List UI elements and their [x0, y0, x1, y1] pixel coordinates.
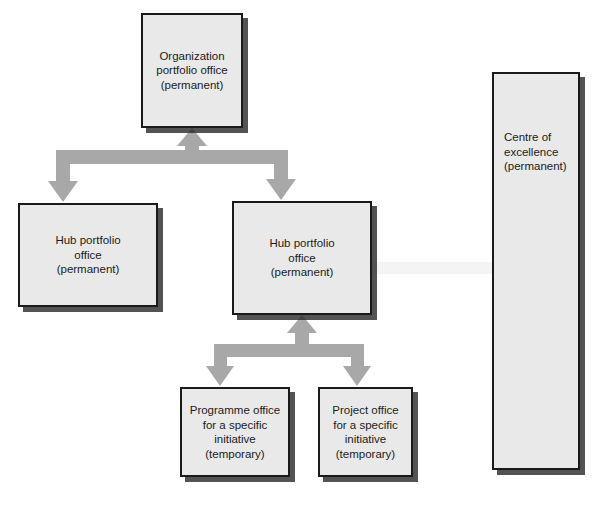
caption-strip — [0, 503, 607, 512]
node-label: Organization portfolio office (permanent… — [150, 49, 233, 93]
node-hub-portfolio-office-left[interactable]: Hub portfolio office (permanent) — [18, 203, 158, 307]
node-project-office[interactable]: Project office for a specific initiative… — [318, 387, 413, 477]
node-label: Programme office for a specific initiati… — [184, 403, 287, 461]
node-centre-of-excellence[interactable]: Centre of excellence (permanent) — [492, 72, 580, 470]
node-programme-office[interactable]: Programme office for a specific initiati… — [180, 387, 290, 477]
node-label: Hub portfolio office (permanent) — [263, 236, 340, 280]
diagram-canvas: Organization portfolio office (permanent… — [0, 0, 607, 512]
node-hub-portfolio-office-right[interactable]: Hub portfolio office (permanent) — [232, 201, 372, 315]
node-label: Centre of excellence (permanent) — [504, 130, 567, 174]
node-label: Hub portfolio office (permanent) — [49, 233, 126, 277]
node-label: Project office for a specific initiative… — [326, 403, 404, 461]
node-organization-portfolio-office[interactable]: Organization portfolio office (permanent… — [141, 13, 243, 128]
